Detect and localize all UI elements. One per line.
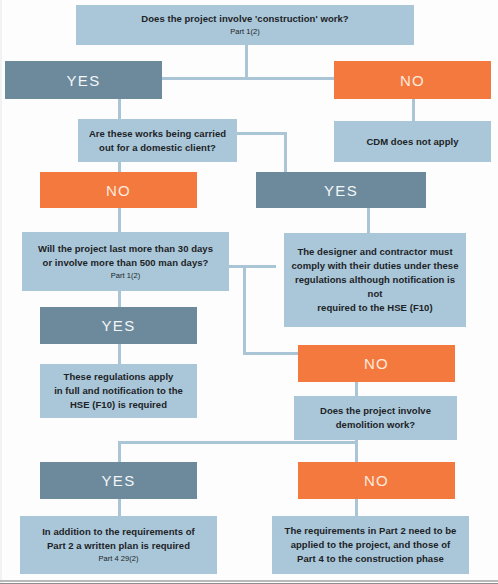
node-q4-text-line2: demolition work? [300,418,451,432]
connector-q3-right-down [243,265,246,355]
node-a4-yes[interactable]: YES [40,462,197,499]
node-a2-yes[interactable]: YES [256,172,426,208]
node-r1-text: CDM does not apply [340,135,485,149]
node-r4yes-text-line1: In addition to the requirements of [26,525,211,539]
node-a2-no[interactable]: NO [40,172,197,208]
node-r4no-text-line3: Part 4 to the construction phase [278,552,463,566]
node-r4yes-subtext: Part 4 29(2) [26,553,211,565]
connector-bottom-yes-down [118,499,121,516]
node-a3-no-label: NO [298,355,455,372]
node-a3-yes-label: YES [40,317,197,334]
node-r3-text-line1: These regulations apply [46,370,191,384]
node-q4-text-line1: Does the project involve [300,404,451,418]
connector-q1-down [245,44,248,79]
node-q3-duration-threshold[interactable]: Will the project last more than 30 days … [22,232,229,291]
connector-a2n-down [118,208,121,232]
connector-q3-right-in [243,352,298,355]
connector-q1-bus [162,77,334,80]
connector-a2y-down [367,208,370,233]
connector-a1n-down [412,98,415,121]
node-q2-domestic-client[interactable]: Are these works being carried out for a … [78,119,237,162]
connector-a4n-down [355,382,358,396]
node-q4-demolition-work[interactable]: Does the project involve demolition work… [294,396,457,440]
node-r2-text-line1: The designer and contractor must [290,245,460,259]
node-a4-no[interactable]: NO [298,462,455,499]
node-r4-part2-requirements[interactable]: The requirements in Part 2 need to be ap… [272,516,469,574]
connector-bottom-no-down [355,499,358,516]
node-a3-yes[interactable]: YES [40,307,197,344]
node-r4no-text-line2: applied to the project, and those of [278,538,463,552]
connector-q4-bus-left [118,441,121,462]
node-r3-text-line2: in full and notification to the [46,384,191,398]
node-a4-yes-label: YES [40,472,197,489]
connector-a3y-down [118,344,121,364]
node-r1-cdm-does-not-apply[interactable]: CDM does not apply [334,121,491,162]
node-r4-written-plan-required[interactable]: In addition to the requirements of Part … [20,516,217,574]
connector-q3-down-left [118,291,121,307]
node-r3-text-line3: HSE (F10) is required [46,398,191,412]
node-q2-text-line2: out for a domestic client? [84,141,231,155]
connector-q2-right [237,132,287,135]
node-q3-text-line1: Will the project last more than 30 days [28,242,223,256]
node-r2-text-line3: regulations although notification is not [290,273,460,301]
node-a2-no-label: NO [40,182,197,199]
node-a2-yes-label: YES [256,182,426,199]
node-a1-yes[interactable]: YES [5,61,162,99]
connector-a1y-down [118,98,121,119]
node-a1-yes-label: YES [5,72,162,89]
node-q1-text: Does the project involve 'construction' … [82,12,408,26]
node-r3-regulations-apply-in-full[interactable]: These regulations apply in full and noti… [40,364,197,418]
node-r2-text-line2: comply with their duties under these [290,259,460,273]
node-r4yes-text-line2: Part 2 a written plan is required [26,539,211,553]
page-left-edge [0,0,2,584]
node-q3-subtext: Part 1(2) [28,270,223,282]
node-q2-text-line1: Are these works being carried [84,127,231,141]
node-q1-construction-work[interactable]: Does the project involve 'construction' … [76,5,414,45]
node-a1-no[interactable]: NO [334,61,491,99]
node-a3-no[interactable]: NO [298,345,455,382]
node-q1-subtext: Part 1(2) [82,26,408,38]
node-a1-no-label: NO [334,72,491,89]
connector-q4-bus-right [355,441,358,462]
page-bottom-rule [0,580,498,582]
node-r4no-text-line1: The requirements in Part 2 need to be [278,524,463,538]
connector-q4-bus [118,441,358,444]
node-r2-designer-contractor[interactable]: The designer and contractor must comply … [284,233,466,327]
node-q3-text-line2: or involve more than 500 man days? [28,256,223,270]
connector-q3-right [229,265,276,268]
flowchart-canvas: Does the project involve 'construction' … [0,0,498,584]
connector-q2-right-down [284,132,287,172]
node-r2-text-line4: required to the HSE (F10) [290,301,460,315]
node-a4-no-label: NO [298,472,455,489]
connector-q2-down-left [118,162,121,172]
